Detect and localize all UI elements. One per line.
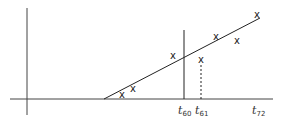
x-marker-icon: x — [170, 50, 176, 61]
tick-label-t61: t61 — [195, 104, 208, 118]
tick-label-t60: t60 — [178, 104, 191, 118]
x-marker-icon: x — [213, 31, 219, 42]
x-marker-icon: x — [198, 54, 204, 65]
svg-text:t60: t60 — [178, 104, 191, 118]
regression-diagram: xxxxxxx t60 t61 t72 — [0, 0, 282, 126]
x-marker-icon: x — [254, 9, 260, 20]
svg-text:t72: t72 — [252, 104, 265, 118]
x-marker-icon: x — [234, 35, 240, 46]
x-marker-icon: x — [130, 83, 136, 94]
svg-text:t61: t61 — [195, 104, 208, 118]
x-marker-icon: x — [119, 89, 125, 100]
trend-line — [104, 18, 260, 99]
tick-label-t72: t72 — [252, 104, 265, 118]
